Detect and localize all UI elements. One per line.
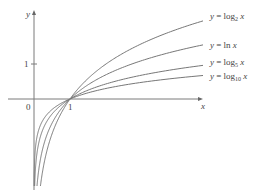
curve-y-log2-x (40, 21, 203, 186)
curve-y-log5-x (35, 65, 203, 186)
curve-label: y = log5 x (209, 57, 244, 68)
y-axis-label: y (25, 9, 30, 19)
curve-label: y = log2 x (209, 11, 244, 22)
curve-labels: y = log2 xy = ln xy = log5 xy = log10 x (209, 11, 247, 82)
curve-label: y = log10 x (209, 71, 247, 82)
x-axis-label: x (200, 101, 205, 111)
curves (34, 21, 203, 186)
x-tick-label-1: 1 (68, 102, 73, 112)
curve-label: y = ln x (209, 40, 237, 50)
y-tick-label-1: 1 (24, 59, 29, 69)
y-axis-arrow-icon (32, 10, 36, 15)
axes: x y 0 1 1 (8, 9, 205, 190)
log-functions-chart: x y 0 1 1 y = log2 xy = ln xy = log5 xy … (0, 0, 260, 194)
curve-y-log10-x (34, 75, 203, 186)
x-tick-label-0: 0 (26, 102, 31, 112)
curve-y-ln-x (37, 45, 203, 186)
